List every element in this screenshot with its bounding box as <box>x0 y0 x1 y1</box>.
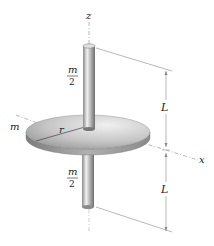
upper-rod <box>83 46 95 129</box>
lower-rod-mass-label: m 2 <box>67 166 78 189</box>
x-axis-label: x <box>199 154 205 165</box>
lower-length-label: L <box>160 183 168 196</box>
lower-rod-mass-numerator: m <box>68 166 77 177</box>
upper-length-label: L <box>160 101 168 114</box>
rod-disk-diagram: z x r m m 2 m 2 <box>0 0 214 246</box>
upper-rod-mass-label: m 2 <box>67 64 78 87</box>
lower-rod-mass-denominator: 2 <box>69 179 75 189</box>
z-axis-label: z <box>85 10 92 21</box>
upper-rod-mass-numerator: m <box>68 64 77 75</box>
upper-rod-top <box>83 44 95 48</box>
upper-rod-base <box>83 127 95 131</box>
upper-rod-mass-denominator: 2 <box>69 77 75 87</box>
disk-mass-label: m <box>10 121 19 132</box>
lower-rod-end <box>82 205 94 209</box>
lower-extension-line <box>96 207 172 232</box>
x-axis-line-front <box>140 142 198 160</box>
upper-extension-line <box>96 48 172 71</box>
